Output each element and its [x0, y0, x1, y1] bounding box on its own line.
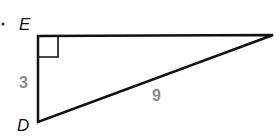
side-label-df: 9	[152, 87, 161, 104]
bullet-dot	[1, 22, 4, 25]
vertex-label-e: E	[19, 15, 31, 34]
vertex-label-d: D	[17, 116, 29, 135]
right-angle-marker	[38, 36, 58, 57]
triangle-diagram: E D 3 9	[0, 0, 279, 138]
side-label-ed: 3	[19, 74, 28, 91]
triangle-edf	[38, 35, 273, 122]
